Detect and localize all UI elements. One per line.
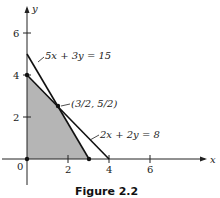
leader-line2 <box>90 135 99 140</box>
leader-point <box>61 104 70 106</box>
vertex-3-0 <box>87 157 91 161</box>
feasible-region <box>27 75 89 159</box>
y-axis-label: y <box>31 3 38 14</box>
vertex-origin <box>25 157 29 161</box>
x-tick-label-4: 4 <box>106 164 112 175</box>
y-axis-arrow-icon <box>25 6 30 13</box>
vertex-intersection <box>56 104 60 108</box>
linear-program-graph: y x 0 2 4 6 2 4 6 5x + 3y = 15 2x + 2y =… <box>0 0 220 198</box>
y-tick-label-2: 2 <box>13 112 19 123</box>
figure-caption: Figure 2.2 <box>75 185 138 198</box>
leader-line1 <box>38 57 44 62</box>
vertex-0-4 <box>25 73 29 77</box>
origin-label: 0 <box>17 161 23 172</box>
line2-label: 2x + 2y = 8 <box>99 129 160 140</box>
x-axis-label: x <box>210 154 216 165</box>
x-axis-arrow-icon <box>200 157 207 162</box>
y-tick-label-6: 6 <box>13 28 19 39</box>
x-tick-label-6: 6 <box>147 164 153 175</box>
x-tick-label-2: 2 <box>65 164 71 175</box>
intersection-label: (3/2, 5/2) <box>71 98 117 109</box>
y-tick-label-4: 4 <box>13 70 19 81</box>
line1-label: 5x + 3y = 15 <box>45 50 111 61</box>
